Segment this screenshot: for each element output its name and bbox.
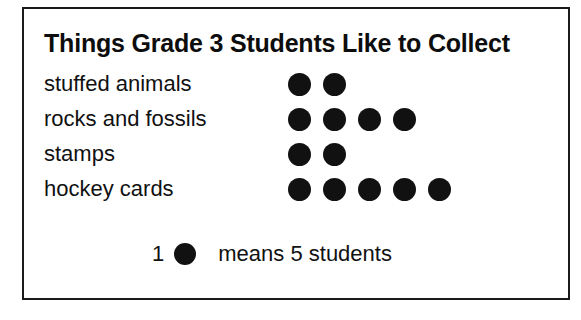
- legend: 1 means 5 students: [24, 241, 568, 267]
- legend-text: means 5 students: [218, 241, 392, 267]
- dot-icon: [288, 108, 311, 131]
- legend-count: 1: [152, 241, 164, 267]
- dot-icon: [323, 143, 346, 166]
- row-label: rocks and fossils: [44, 102, 207, 137]
- dot-icon: [428, 178, 451, 201]
- dot-icon: [288, 73, 311, 96]
- pictograph-row-hockey-cards: hockey cards: [24, 172, 568, 207]
- row-icons: [288, 172, 451, 207]
- dot-icon: [393, 108, 416, 131]
- row-label: stamps: [44, 137, 115, 172]
- dot-icon: [358, 108, 381, 131]
- row-label: hockey cards: [44, 172, 174, 207]
- row-icons: [288, 137, 346, 172]
- dot-icon: [323, 73, 346, 96]
- dot-icon: [288, 143, 311, 166]
- legend-inner: 1 means 5 students: [152, 241, 392, 267]
- page-title: Things Grade 3 Students Like to Collect: [44, 29, 510, 58]
- row-label: stuffed animals: [44, 67, 192, 102]
- dot-icon: [358, 178, 381, 201]
- pictograph-row-stamps: stamps: [24, 137, 568, 172]
- pictograph-card: Things Grade 3 Students Like to Collect …: [22, 7, 570, 300]
- row-icons: [288, 67, 346, 102]
- pictograph-row-rocks-and-fossils: rocks and fossils: [24, 102, 568, 137]
- dot-icon: [393, 178, 416, 201]
- pictograph-row-stuffed-animals: stuffed animals: [24, 67, 568, 102]
- pictograph-rows: stuffed animals rocks and fossils stamps: [24, 67, 568, 207]
- dot-icon: [288, 178, 311, 201]
- row-icons: [288, 102, 416, 137]
- dot-icon: [323, 178, 346, 201]
- dot-icon: [174, 243, 196, 265]
- dot-icon: [323, 108, 346, 131]
